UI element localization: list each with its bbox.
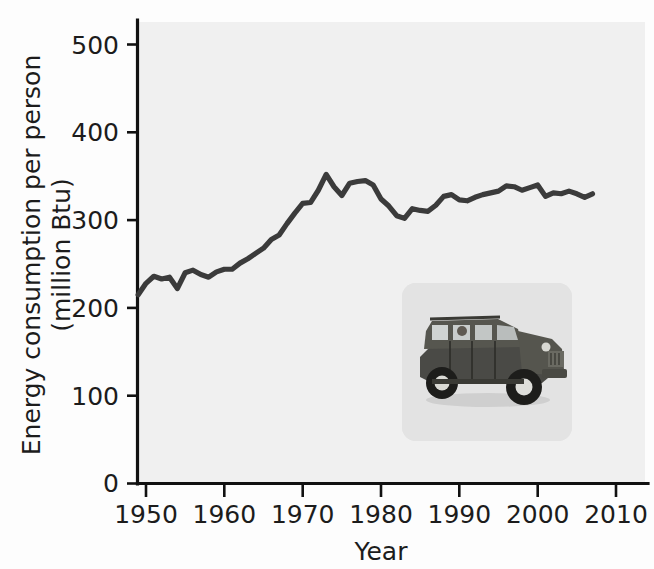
x-tick-label-1950: 1950 <box>114 500 178 529</box>
chart-figure: 0 100 200 300 400 500 1950 1960 1970 198… <box>0 0 654 569</box>
y-tick-label-100: 100 <box>71 382 119 411</box>
x-tick-label-1960: 1960 <box>192 500 256 529</box>
x-tick-label-1970: 1970 <box>271 500 335 529</box>
x-tick-label-1980: 1980 <box>349 500 413 529</box>
x-axis-ticks <box>146 484 616 497</box>
y-axis-title-line2: (million Btu) <box>47 178 76 332</box>
x-axis-title: Year <box>354 537 409 566</box>
y-tick-label-500: 500 <box>71 31 119 60</box>
y-axis-title-line1: Energy consumption per person <box>17 55 46 455</box>
x-tick-label-1990: 1990 <box>427 500 491 529</box>
x-tick-label-2010: 2010 <box>584 500 648 529</box>
hummer-photo-inset <box>402 283 572 441</box>
y-tick-label-200: 200 <box>71 294 119 323</box>
y-tick-label-0: 0 <box>103 469 119 498</box>
y-tick-label-400: 400 <box>71 118 119 147</box>
y-tick-label-300: 300 <box>71 206 119 235</box>
hummer-photo <box>402 283 572 441</box>
x-tick-label-2000: 2000 <box>506 500 570 529</box>
